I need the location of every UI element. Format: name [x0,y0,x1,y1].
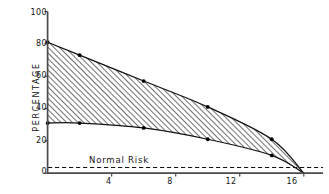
lower-point-1 [78,121,82,125]
x-tick-label-16: 16 [287,178,298,186]
upper-point-3 [206,105,210,109]
y-tick-label-100: 100 [31,9,47,17]
x-tick-label-8: 8 [167,178,173,186]
lower-point-4 [270,154,274,158]
normal-risk-label: Normal Risk [89,155,149,165]
x-tick-label-4: 4 [106,178,112,186]
y-tick-label-0: 0 [42,168,48,176]
y-tick-label-20: 20 [36,137,47,145]
upper-point-4 [270,137,274,141]
y-tick-label-80: 80 [36,40,47,48]
upper-point-1 [78,53,82,57]
y-tick-label-40: 40 [36,104,47,112]
lower-point-3 [206,137,210,141]
percentage-risk-chart: PERCENTAGE 0 20 40 60 80 100 4 8 12 16 N… [0,0,329,194]
chart-plot-area [0,0,329,194]
y-tick-label-60: 60 [36,72,47,80]
x-tick-label-12: 12 [226,178,237,186]
upper-point-2 [142,79,146,83]
lower-point-2 [142,126,146,130]
